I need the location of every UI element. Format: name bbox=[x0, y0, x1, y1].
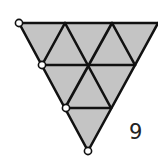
vertex-marker-2 bbox=[38, 61, 45, 68]
vertex-marker-1 bbox=[15, 19, 22, 26]
count-label: 9 bbox=[129, 122, 142, 143]
vertex-marker-4 bbox=[84, 147, 91, 154]
vertex-marker-3 bbox=[62, 104, 69, 111]
